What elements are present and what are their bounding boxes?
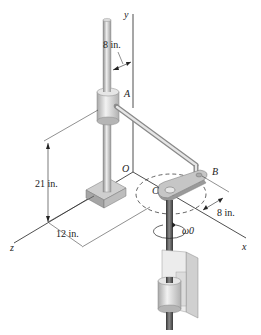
height-dimension (44, 110, 98, 222)
omega-label: ω0 (182, 225, 194, 236)
height-label: 21 in. (35, 178, 58, 189)
x-axis-label: x (241, 241, 247, 252)
x-offset-label: 8 in. (217, 207, 235, 218)
collar-a (97, 80, 119, 125)
mechanism-diagram: y z x O A C B (0, 0, 261, 335)
lower-bearing (158, 277, 181, 330)
top-offset-dimension (113, 52, 131, 70)
point-b-label: B (212, 166, 218, 177)
crank-cb (158, 170, 207, 201)
z-offset-label: 12 in. (56, 228, 79, 239)
y-axis-label: y (123, 9, 129, 20)
point-c-label: C (152, 185, 159, 196)
origin-label: O (122, 163, 129, 174)
top-offset-label: 8 in. (103, 39, 121, 50)
point-a-label: A (123, 88, 131, 99)
z-axis-label: z (9, 242, 14, 253)
x-offset-dimension (202, 176, 229, 210)
